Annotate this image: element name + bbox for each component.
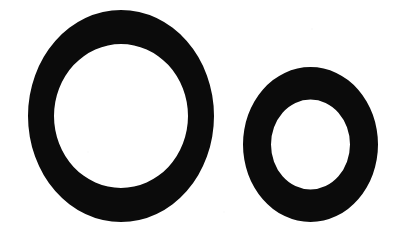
letterform-artwork: [0, 0, 400, 241]
letterform-specimen-canvas: Oo: [0, 0, 400, 241]
